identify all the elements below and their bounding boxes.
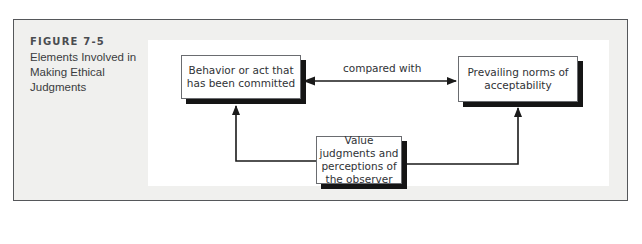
arrowhead-left-icon: [303, 77, 315, 86]
node-norms-label: Prevailing norms of acceptability: [464, 66, 572, 92]
node-behavior: Behavior or act that has been committed: [181, 55, 301, 99]
observer-to-behavior-arrow: [236, 106, 316, 161]
connector-arrows: [0, 0, 642, 244]
edge-label-compared-with: compared with: [343, 62, 421, 74]
node-observer-label: Value judgments and perceptions of the o…: [317, 134, 401, 186]
observer-to-norms-arrow: [400, 108, 518, 164]
node-norms: Prevailing norms of acceptability: [458, 56, 578, 102]
node-observer: Value judgments and perceptions of the o…: [316, 136, 402, 184]
node-behavior-label: Behavior or act that has been committed: [186, 64, 296, 90]
